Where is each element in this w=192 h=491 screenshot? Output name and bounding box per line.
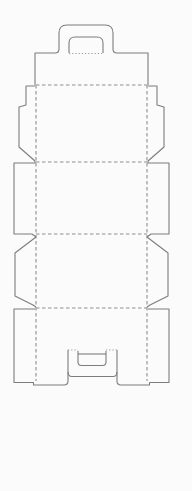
bottom-tab-right-and-flap-edge xyxy=(117,309,169,385)
side-flap-1-right-outline xyxy=(148,86,164,161)
lock-slot-inner-cut xyxy=(78,351,106,366)
side-flap-3-right-outline xyxy=(147,237,168,307)
side-flap-2-left-outline xyxy=(14,161,36,237)
handle-inner-cutout xyxy=(69,37,103,53)
side-flap-3-left-outline xyxy=(15,237,36,307)
bottom-tab-left-and-flap-edge xyxy=(14,309,68,385)
box-dieline-svg xyxy=(0,0,192,491)
dieline-canvas xyxy=(0,0,192,491)
side-flap-1-left-outline xyxy=(19,86,35,161)
side-flap-2-right-outline xyxy=(147,161,169,237)
top-flap-and-handle-tab-outline xyxy=(35,25,148,85)
lock-slot-center-bottom-edge xyxy=(68,372,117,377)
